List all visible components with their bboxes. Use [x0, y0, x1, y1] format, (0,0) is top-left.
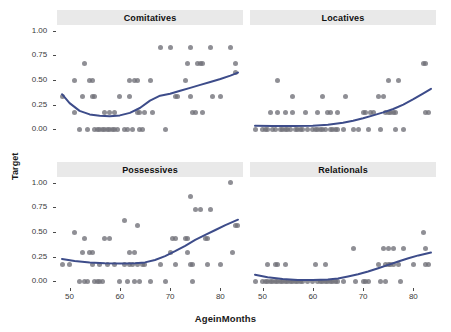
x-axis-label: AgeinMonths [0, 313, 451, 324]
x-axis-tick-mark [220, 288, 221, 291]
facet-panel-possessives [57, 177, 243, 287]
x-axis-tick-mark [120, 288, 121, 291]
facet-strip-comitatives: Comitatives [57, 10, 243, 25]
y-axis-tick-label: 0.00 [2, 124, 47, 133]
facet-panel-relationals [250, 177, 436, 287]
y-axis-tick-label: 1.00 [2, 178, 47, 187]
facet-strip-relationals: Relationals [250, 162, 436, 177]
facet-panel-comitatives [57, 25, 243, 135]
facet-strip-locatives: Locatives [250, 10, 436, 25]
facet-panel-locatives [250, 25, 436, 135]
facet-strip-possessives: Possessives [57, 162, 243, 177]
scatter-plot-matrix: ComitativesLocativesPossessivesRelationa… [0, 0, 451, 332]
x-axis-tick-label: 50 [249, 292, 277, 301]
x-axis-tick-mark [263, 288, 264, 291]
facet-title: Locatives [322, 13, 365, 23]
y-axis-tick-mark [53, 55, 56, 56]
y-axis-tick-mark [53, 257, 56, 258]
y-axis-tick-mark [53, 281, 56, 282]
x-axis-tick-label: 50 [56, 292, 84, 301]
x-axis-tick-mark [70, 288, 71, 291]
facet-title: Comitatives [124, 13, 177, 23]
y-axis-tick-label: 0.00 [2, 276, 47, 285]
x-axis-tick-label: 60 [299, 292, 327, 301]
x-axis-tick-label: 70 [349, 292, 377, 301]
x-axis-tick-label: 80 [206, 292, 234, 301]
x-axis-tick-label: 70 [156, 292, 184, 301]
x-axis-tick-label: 60 [106, 292, 134, 301]
y-axis-tick-mark [53, 105, 56, 106]
y-axis-tick-label: 0.50 [2, 227, 47, 236]
x-axis-tick-mark [363, 288, 364, 291]
y-axis-tick-mark [53, 31, 56, 32]
y-axis-tick-mark [53, 207, 56, 208]
y-axis-tick-mark [53, 183, 56, 184]
y-axis-tick-label: 0.25 [2, 252, 47, 261]
trend-line [250, 177, 436, 287]
y-axis-tick-label: 1.00 [2, 26, 47, 35]
y-axis-tick-label: 0.75 [2, 50, 47, 59]
y-axis-tick-mark [53, 232, 56, 233]
facet-title: Relationals [318, 165, 368, 175]
x-axis-tick-mark [413, 288, 414, 291]
trend-line [57, 177, 243, 287]
trend-line [57, 25, 243, 135]
y-axis-tick-label: 0.25 [2, 100, 47, 109]
x-axis-tick-mark [313, 288, 314, 291]
x-axis-tick-label: 80 [399, 292, 427, 301]
y-axis-label: Target [10, 153, 20, 180]
y-axis-tick-mark [53, 129, 56, 130]
x-axis-tick-mark [170, 288, 171, 291]
facet-title: Possessives [122, 165, 178, 175]
y-axis-tick-label: 0.75 [2, 202, 47, 211]
y-axis-tick-mark [53, 80, 56, 81]
trend-line [250, 25, 436, 135]
y-axis-tick-label: 0.50 [2, 75, 47, 84]
